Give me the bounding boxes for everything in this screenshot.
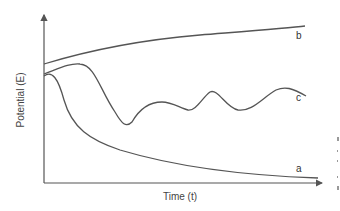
x-axis-label: Time (t) bbox=[163, 191, 197, 202]
edge-artifact bbox=[337, 186, 339, 190]
y-axis-label: Potential (E) bbox=[15, 72, 26, 127]
edge-artifact bbox=[337, 150, 338, 152]
curve-label-c: c bbox=[296, 92, 301, 103]
potential-time-diagram: b c a Potential (E) Time (t) bbox=[0, 0, 340, 211]
edge-artifact bbox=[337, 137, 339, 141]
edge-artifact bbox=[337, 176, 338, 178]
curve-b bbox=[44, 26, 305, 64]
curve-label-a: a bbox=[296, 163, 302, 174]
curve-c bbox=[44, 64, 306, 125]
curve-label-b: b bbox=[296, 30, 302, 41]
edge-artifact bbox=[337, 160, 338, 162]
